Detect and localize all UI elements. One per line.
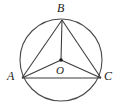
center-label-o: O xyxy=(56,64,64,76)
vertex-label-c: C xyxy=(104,70,112,82)
geometry-figure: B A C O xyxy=(0,0,120,108)
vertex-label-b: B xyxy=(57,2,64,14)
center-point-dot xyxy=(59,58,63,62)
radius-OB xyxy=(61,20,62,60)
geometry-canvas xyxy=(0,0,120,108)
vertex-label-a: A xyxy=(7,70,14,82)
